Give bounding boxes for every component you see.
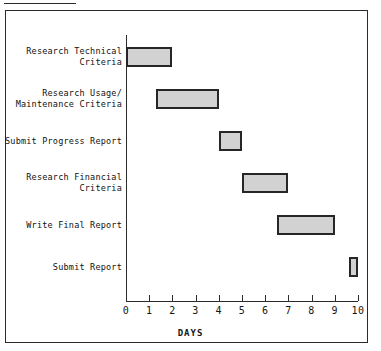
task-label: Research Usage/ Maintenance Criteria: [0, 88, 122, 110]
x-tick-5: [242, 295, 243, 301]
gantt-chart-figure: 012345678910 Research Technical Criteria…: [0, 0, 381, 351]
x-tick-7: [288, 295, 289, 301]
x-tick-10: [358, 295, 359, 301]
x-tick-2: [172, 295, 173, 301]
x-tick-1: [149, 295, 150, 301]
x-tick-label-2: 2: [169, 305, 176, 316]
x-tick-3: [196, 295, 197, 301]
x-tick-8: [312, 295, 313, 301]
x-tick-6: [265, 295, 266, 301]
task-label: Submit Report: [0, 256, 122, 278]
task-label-text: Submit Report: [2, 262, 122, 273]
x-tick-label-1: 1: [146, 305, 153, 316]
gantt-bar: [219, 131, 242, 151]
x-tick-label-8: 8: [308, 305, 315, 316]
task-label: Submit Progress Report: [0, 130, 122, 152]
gantt-bar: [349, 257, 358, 277]
x-tick-label-9: 9: [332, 305, 339, 316]
x-tick-4: [219, 295, 220, 301]
task-label-text: Research Usage/ Maintenance Criteria: [2, 88, 122, 110]
task-label-text: Research Financial Criteria: [2, 172, 122, 194]
task-label-text: Submit Progress Report: [2, 136, 122, 147]
x-tick-label-3: 3: [192, 305, 199, 316]
x-tick-label-6: 6: [262, 305, 269, 316]
x-tick-label-10: 10: [351, 305, 364, 316]
x-tick-0: [126, 295, 127, 301]
task-label-text: Research Technical Criteria: [2, 46, 122, 68]
x-tick-label-5: 5: [239, 305, 246, 316]
x-axis-line: [126, 301, 358, 302]
gantt-bar: [277, 215, 335, 235]
task-label: Write Final Report: [0, 214, 122, 236]
x-tick-label-0: 0: [123, 305, 130, 316]
x-tick-label-4: 4: [216, 305, 223, 316]
x-tick-label-7: 7: [285, 305, 292, 316]
task-label-text: Write Final Report: [2, 220, 122, 231]
x-axis-title: DAYS: [0, 328, 381, 338]
plot-area: 012345678910 Research Technical Criteria…: [0, 0, 381, 351]
y-axis-line: [126, 35, 127, 302]
gantt-bar: [242, 173, 288, 193]
x-tick-9: [335, 295, 336, 301]
gantt-bar: [126, 47, 172, 67]
task-label: Research Financial Criteria: [0, 172, 122, 194]
task-label: Research Technical Criteria: [0, 46, 122, 68]
gantt-bar: [156, 89, 219, 109]
